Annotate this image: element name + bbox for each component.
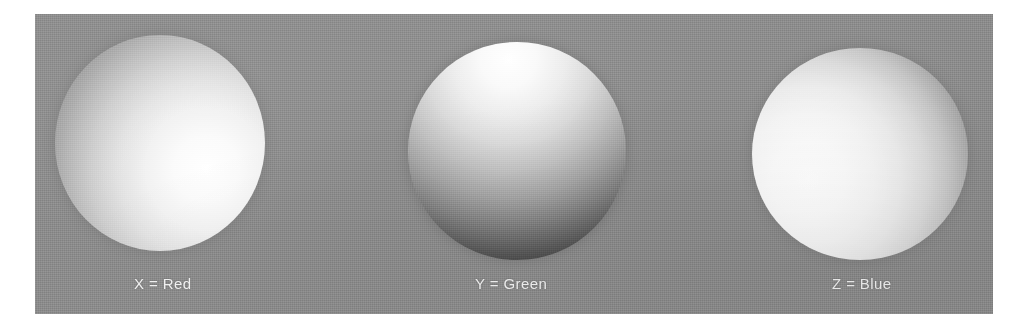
- sphere-panel-z: Z = Blue: [695, 14, 993, 314]
- sphere-panel-y: Y = Green: [365, 14, 695, 314]
- shaded-sphere-x: [55, 35, 265, 251]
- caption-z: Z = Blue: [832, 275, 891, 292]
- caption-x: X = Red: [134, 275, 191, 292]
- caption-y: Y = Green: [475, 275, 547, 292]
- shaded-sphere-z: [752, 48, 968, 260]
- sphere-panel-x: X = Red: [35, 14, 365, 314]
- shaded-sphere-y: [408, 42, 626, 260]
- photographic-plate: X = Red Y = Green Z = Blue: [35, 14, 993, 314]
- figure-canvas: X = Red Y = Green Z = Blue: [0, 0, 1035, 335]
